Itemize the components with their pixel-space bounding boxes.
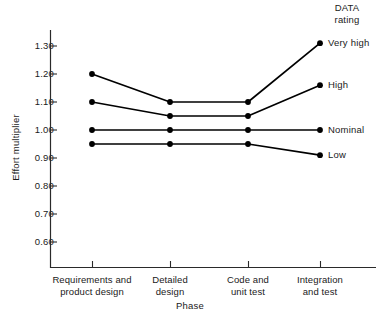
xtick-label-integration-test-line1: Integration <box>272 274 368 286</box>
series-low <box>89 141 323 158</box>
xtick-label-integration-test: Integration and test <box>272 274 368 297</box>
series-high <box>89 82 323 119</box>
x-axis-title: Phase <box>150 300 230 311</box>
series-nominal <box>89 127 323 133</box>
legend-entry-high: High <box>328 80 348 90</box>
series-very-high <box>89 40 323 105</box>
chart-figure: DATA rating 1.30 1.20 1.10 1.00 0.90 0.8… <box>0 0 382 321</box>
legend-entry-low: Low <box>328 150 346 160</box>
plot-canvas <box>0 0 382 321</box>
xtick-label-integration-test-line2: and test <box>272 286 368 298</box>
x-axis-ticks <box>93 261 321 268</box>
legend-entry-very-high: Very high <box>328 38 369 48</box>
legend-entry-nominal: Nominal <box>328 125 364 135</box>
y-axis-ticks <box>51 46 58 242</box>
